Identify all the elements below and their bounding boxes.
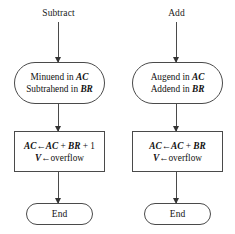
arrow-action-to-end-right <box>176 172 177 203</box>
action-line-2: V←overflow <box>35 152 84 164</box>
start-caption-subtract: Subtract <box>0 8 117 19</box>
action-line-2: V←overflow <box>153 152 202 164</box>
assign-arrow-icon: ← <box>162 141 171 151</box>
arrow-action-to-end-left <box>58 172 59 203</box>
arrow-operand-to-action-right <box>176 104 177 131</box>
action-dest-ac: AC <box>24 141 36 151</box>
operand-line-1-text: Augend in <box>151 72 192 82</box>
terminator-end-add: End <box>144 203 211 225</box>
operand-box-subtract: Minuend in AC Subtrahend in BR <box>14 62 105 104</box>
overflow-label: overflow <box>168 153 202 163</box>
arrow-caption-to-operand-left <box>58 22 59 62</box>
terminator-end-subtract: End <box>26 203 93 225</box>
action-src-ac: AC <box>171 141 183 151</box>
action-src-ac: AC <box>46 141 58 151</box>
register-ac: AC <box>76 72 88 82</box>
operand-line-2: Addend in BR <box>151 83 205 95</box>
action-src-br: BR <box>193 141 205 151</box>
arrow-caption-to-operand-right <box>176 22 177 62</box>
operand-line-1: Minuend in AC <box>31 71 89 83</box>
assign-arrow-icon: ← <box>36 141 45 151</box>
action-line-1: AC←AC + BR + 1 <box>24 140 95 152</box>
start-caption-add: Add <box>118 8 235 19</box>
action-box-subtract: AC←AC + BR + 1 V←overflow <box>14 131 105 172</box>
register-br: BR <box>192 84 204 94</box>
plus-one-term: + 1 <box>80 141 95 151</box>
flow-column-subtract: Subtract Minuend in AC Subtrahend in BR … <box>0 0 117 234</box>
register-ac: AC <box>192 72 204 82</box>
flowchart-canvas: Subtract Minuend in AC Subtrahend in BR … <box>0 0 235 234</box>
overflow-label: overflow <box>50 153 84 163</box>
operand-line-2: Subtrahend in BR <box>26 83 93 95</box>
action-line-1: AC←AC + BR <box>149 140 205 152</box>
action-box-add: AC←AC + BR V←overflow <box>132 131 223 172</box>
plus-operator-1: + <box>183 141 193 151</box>
plus-operator-1: + <box>58 141 68 151</box>
flow-column-add: Add Augend in AC Addend in BR AC←AC + BR… <box>118 0 235 234</box>
operand-line-1-text: Minuend in <box>31 72 76 82</box>
operand-line-2-text: Subtrahend in <box>26 84 80 94</box>
operand-line-1: Augend in AC <box>151 71 205 83</box>
register-br: BR <box>80 84 92 94</box>
terminator-label: End <box>52 209 67 220</box>
arrow-operand-to-action-left <box>58 104 59 131</box>
terminator-label: End <box>170 209 185 220</box>
operand-box-add: Augend in AC Addend in BR <box>132 62 223 104</box>
action-dest-ac: AC <box>149 141 161 151</box>
action-src-br: BR <box>68 141 80 151</box>
operand-line-2-text: Addend in <box>151 84 192 94</box>
